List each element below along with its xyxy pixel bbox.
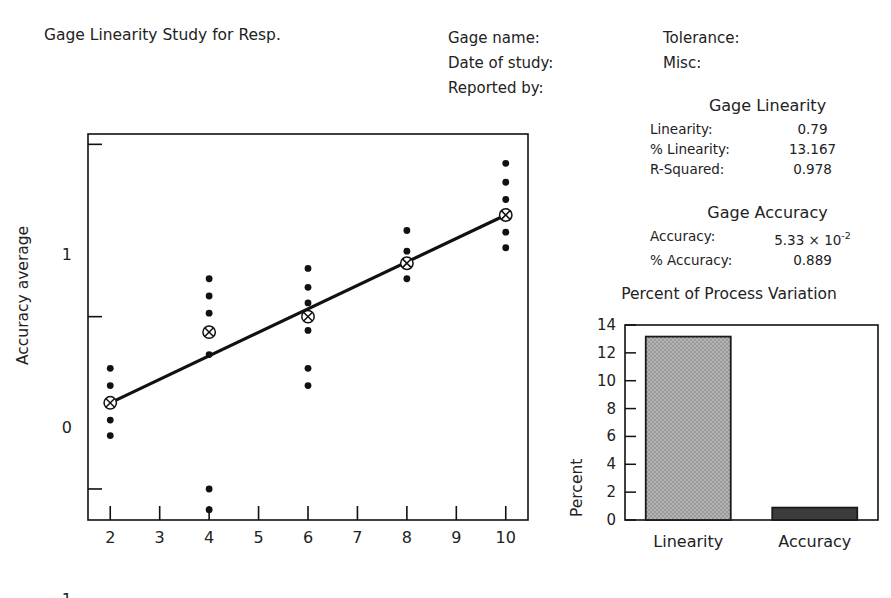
scatter-data-point xyxy=(502,160,509,167)
gage-linearity-panel: Gage Linearity Linearity: 0.79 % Lineari… xyxy=(650,96,885,179)
stat-row-percent-linearity: % Linearity: 13.167 xyxy=(650,139,885,159)
scatter-data-point xyxy=(502,244,509,251)
scatter-y-tick-label: -1 xyxy=(42,589,72,598)
scatter-data-point xyxy=(305,327,312,334)
scatter-data-point xyxy=(403,227,410,234)
scatter-plot-canvas xyxy=(0,110,560,590)
gage-linearity-heading: Gage Linearity xyxy=(650,96,885,115)
accuracy-mantissa: 5.33 × 10 xyxy=(774,232,841,248)
bar-chart-title: Percent of Process Variation xyxy=(574,285,884,303)
scatter-mean-marker xyxy=(104,397,116,409)
scatter-y-tick-label: 0 xyxy=(42,417,72,436)
stat-row-r-squared: R-Squared: 0.978 xyxy=(650,159,885,179)
scatter-x-tick-label: 5 xyxy=(253,528,263,547)
gage-linearity-scatter-chart: Accuracy average Master Part Measurement… xyxy=(0,110,560,590)
field-reported-by: Reported by: xyxy=(448,76,553,101)
stat-label-linearity: Linearity: xyxy=(650,119,758,139)
bar-y-tick-label: 10 xyxy=(590,372,616,390)
scatter-data-point xyxy=(305,265,312,272)
scatter-data-point xyxy=(107,432,114,439)
bar-y-tick-label: 2 xyxy=(590,483,616,501)
gage-accuracy-heading: Gage Accuracy xyxy=(650,203,885,222)
stat-value-accuracy: 5.33 × 10-2 xyxy=(758,226,885,250)
scatter-mean-marker xyxy=(302,310,314,322)
bar-y-tick-label: 8 xyxy=(590,400,616,418)
scatter-data-point xyxy=(206,351,213,358)
stat-value-r-squared: 0.978 xyxy=(758,159,885,179)
stat-label-accuracy: Accuracy: xyxy=(650,226,758,250)
scatter-y-tick-label: 1 xyxy=(42,245,72,264)
scatter-data-point xyxy=(206,486,213,493)
scatter-data-point xyxy=(107,365,114,372)
scatter-data-point xyxy=(305,299,312,306)
scatter-data-point xyxy=(206,310,213,317)
bar-y-tick-label: 0 xyxy=(590,511,616,529)
percent-of-process-variation-chart: Percent of Process Variation Percent 024… xyxy=(560,285,891,585)
scatter-x-tick-label: 3 xyxy=(155,528,165,547)
field-date-of-study: Date of study: xyxy=(448,51,553,76)
scatter-x-tick-label: 10 xyxy=(496,528,516,547)
scatter-y-axis-label: Accuracy average xyxy=(14,226,32,365)
stat-label-percent-accuracy: % Accuracy: xyxy=(650,250,758,270)
stat-row-accuracy: Accuracy: 5.33 × 10-2 xyxy=(650,226,885,250)
bar-y-tick-label: 4 xyxy=(590,455,616,473)
scatter-x-tick-label: 9 xyxy=(451,528,461,547)
stat-label-percent-linearity: % Linearity: xyxy=(650,139,758,159)
scatter-data-point xyxy=(502,229,509,236)
scatter-x-tick-label: 2 xyxy=(105,528,115,547)
bar-y-axis-label: Percent xyxy=(568,459,586,517)
header-fields-left: Gage name: Date of study: Reported by: xyxy=(448,26,553,101)
bar-linearity xyxy=(646,337,731,520)
scatter-data-point xyxy=(502,196,509,203)
header-fields-right: Tolerance: Misc: xyxy=(663,26,740,76)
gage-accuracy-panel: Gage Accuracy Accuracy: 5.33 × 10-2 % Ac… xyxy=(650,203,885,270)
scatter-data-point xyxy=(502,179,509,186)
field-gage-name: Gage name: xyxy=(448,26,553,51)
bar-accuracy xyxy=(772,508,857,520)
stat-value-linearity: 0.79 xyxy=(758,119,885,139)
stat-value-percent-accuracy: 0.889 xyxy=(758,250,885,270)
scatter-mean-marker xyxy=(203,326,215,338)
stat-label-r-squared: R-Squared: xyxy=(650,159,758,179)
bar-y-tick-label: 6 xyxy=(590,427,616,445)
bar-y-tick-label: 14 xyxy=(590,316,616,334)
scatter-data-point xyxy=(206,275,213,282)
scatter-data-point xyxy=(206,293,213,300)
scatter-plot-frame xyxy=(88,134,528,520)
scatter-data-point xyxy=(305,284,312,291)
scatter-x-tick-label: 7 xyxy=(352,528,362,547)
scatter-data-point xyxy=(206,506,213,513)
field-tolerance: Tolerance: xyxy=(663,26,740,51)
scatter-data-point xyxy=(305,365,312,372)
bar-category-label: Accuracy xyxy=(778,532,851,551)
scatter-data-point xyxy=(107,417,114,424)
scatter-data-point xyxy=(107,382,114,389)
bar-category-label: Linearity xyxy=(653,532,723,551)
scatter-data-point xyxy=(403,275,410,282)
stat-row-linearity: Linearity: 0.79 xyxy=(650,119,885,139)
stat-row-percent-accuracy: % Accuracy: 0.889 xyxy=(650,250,885,270)
field-misc: Misc: xyxy=(663,51,740,76)
scatter-x-tick-label: 8 xyxy=(402,528,412,547)
scatter-data-point xyxy=(403,248,410,255)
scatter-data-point xyxy=(305,382,312,389)
accuracy-exponent: -2 xyxy=(841,230,850,241)
scatter-x-tick-label: 4 xyxy=(204,528,214,547)
scatter-regression-line xyxy=(110,215,506,403)
scatter-x-tick-label: 6 xyxy=(303,528,313,547)
scatter-mean-marker xyxy=(500,209,512,221)
stat-value-percent-linearity: 13.167 xyxy=(758,139,885,159)
bar-y-tick-label: 12 xyxy=(590,344,616,362)
page-title: Gage Linearity Study for Resp. xyxy=(44,26,281,44)
scatter-mean-marker xyxy=(401,257,413,269)
